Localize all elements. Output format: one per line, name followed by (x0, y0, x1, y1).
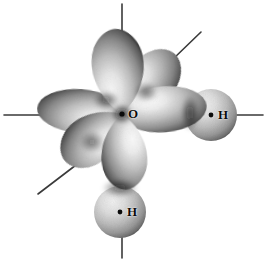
oxygen-nucleus-dot (119, 111, 124, 116)
crease-bottom-h (102, 179, 138, 197)
crease-top-left (93, 91, 119, 109)
water-molecule-orbital-figure: O H H (0, 0, 267, 260)
hydrogen-bottom-nucleus-dot (118, 210, 123, 215)
crease-upper-right (134, 82, 158, 102)
axis-line-lower-left (38, 165, 76, 194)
crease-lower-left (79, 131, 105, 153)
hydrogen-right-nucleus-dot (209, 113, 214, 118)
crease-right-h (181, 95, 199, 131)
orbital-diagram-canvas (0, 0, 267, 260)
